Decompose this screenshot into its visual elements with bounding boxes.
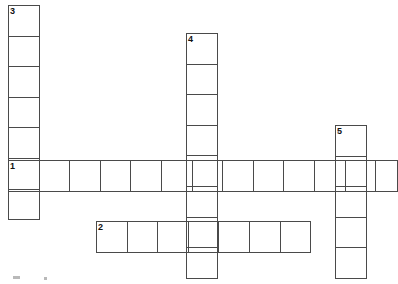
crossword-cell[interactable] [8, 127, 40, 159]
crossword-cell[interactable] [69, 160, 101, 192]
crossword-cell[interactable] [186, 94, 218, 126]
crossword-clue-number: 5 [337, 126, 342, 136]
crossword-cell[interactable] [335, 186, 367, 218]
crossword-cell[interactable] [130, 160, 162, 192]
crossword-clue-number: 4 [188, 34, 193, 44]
crossword-grid[interactable]: 12345 [0, 0, 398, 284]
crossword-cell[interactable] [100, 160, 132, 192]
crossword-cell[interactable] [186, 155, 218, 187]
page-artifact-mark [44, 277, 47, 280]
crossword-cell[interactable] [335, 247, 367, 279]
crossword-cell[interactable]: 2 [96, 221, 128, 253]
crossword-cell[interactable] [335, 217, 367, 249]
crossword-cell[interactable] [253, 160, 285, 192]
page-artifact-mark [13, 276, 20, 279]
crossword-cell[interactable] [280, 221, 312, 253]
crossword-cell[interactable]: 5 [335, 125, 367, 157]
crossword-cell[interactable] [157, 221, 189, 253]
crossword-cell[interactable] [127, 221, 159, 253]
crossword-clue-number: 2 [98, 222, 103, 232]
crossword-cell[interactable] [186, 64, 218, 96]
crossword-cell[interactable] [375, 160, 398, 192]
crossword-cell[interactable]: 3 [8, 5, 40, 37]
crossword-cell[interactable] [39, 160, 71, 192]
crossword-clue-number: 3 [10, 6, 15, 16]
crossword-cell[interactable] [186, 186, 218, 218]
crossword-cell[interactable] [8, 158, 40, 190]
crossword-cell[interactable] [186, 247, 218, 279]
crossword-cell[interactable] [8, 97, 40, 129]
crossword-cell[interactable]: 4 [186, 33, 218, 65]
crossword-cell[interactable] [218, 221, 250, 253]
crossword-cell[interactable] [249, 221, 281, 253]
crossword-cell[interactable] [8, 66, 40, 98]
crossword-cell[interactable] [283, 160, 315, 192]
crossword-cell[interactable] [8, 36, 40, 68]
crossword-cell[interactable] [186, 125, 218, 157]
crossword-cell[interactable] [335, 156, 367, 188]
crossword-cell[interactable] [186, 217, 218, 249]
crossword-cell[interactable] [8, 189, 40, 221]
crossword-cell[interactable] [222, 160, 254, 192]
